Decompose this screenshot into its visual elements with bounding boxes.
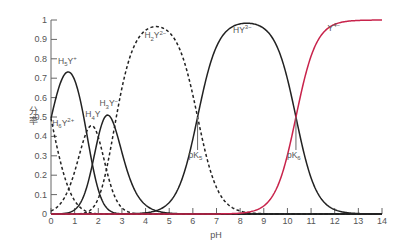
species-label: H6Y2+ (52, 117, 74, 129)
x-tick-label: 3 (119, 216, 124, 226)
species-label: H5Y+ (58, 55, 77, 67)
x-tick-label: 8 (238, 216, 243, 226)
y-tick-label: 0.7 (34, 73, 47, 83)
y-tick-label: 0.9 (34, 34, 47, 44)
y-tick-label: 0.1 (34, 190, 47, 200)
x-axis-title: pH (210, 230, 222, 240)
series-curves (51, 20, 382, 214)
curve-hy3 (51, 23, 382, 214)
pk-label: pK6 (287, 150, 301, 162)
y-tick-label: 0.3 (34, 151, 47, 161)
x-tick-label: 1 (72, 216, 77, 226)
x-tick-label: 2 (96, 216, 101, 226)
edta-speciation-chart: 00.10.20.30.40.50.60.70.80.91 0123456789… (0, 0, 406, 247)
y-axis-title: 分率 (29, 106, 38, 126)
x-tick-label: 6 (190, 216, 195, 226)
x-tick-label: 9 (261, 216, 266, 226)
y-tick-label: 0.6 (34, 93, 47, 103)
x-tick-label: 13 (353, 216, 363, 226)
y-tick-label: 0.4 (34, 131, 47, 141)
y-tick-label: 0.8 (34, 54, 47, 64)
x-tick-label: 7 (214, 216, 219, 226)
x-tick-label: 4 (143, 216, 148, 226)
species-label: Y4− (328, 22, 341, 32)
species-label: H4Y (85, 109, 100, 121)
curve-h4y (51, 126, 382, 214)
x-tick-label: 5 (167, 216, 172, 226)
species-label: H3Y− (99, 98, 118, 110)
curve-h6y2 (51, 119, 382, 214)
y-tick-label: 0 (42, 209, 47, 219)
curve-y4 (51, 20, 382, 214)
x-tick-label: 14 (377, 216, 387, 226)
species-label: H2Y2− (144, 30, 166, 42)
pk-label: pK5 (189, 150, 203, 162)
y-tick-label: 1 (42, 15, 47, 25)
x-tick-label: 10 (282, 216, 292, 226)
species-label: HY3− (233, 24, 252, 35)
curve-h2y2 (51, 27, 382, 214)
curve-h3y (51, 115, 382, 214)
x-tick-label: 11 (306, 216, 315, 226)
x-tick-label: 0 (48, 216, 53, 226)
x-tick-label: 12 (330, 216, 340, 226)
y-tick-label: 0.2 (34, 170, 47, 180)
